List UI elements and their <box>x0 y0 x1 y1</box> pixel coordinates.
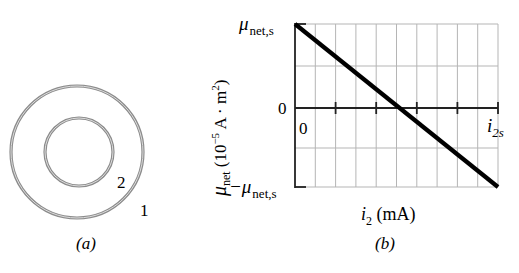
panel-a-caption: (a) <box>76 234 96 253</box>
ring-2-inner <box>45 118 113 186</box>
ring-1-label: 1 <box>140 201 149 220</box>
figure: 2 1 (a) <box>0 0 519 273</box>
x-origin-label: 0 <box>299 119 308 138</box>
panel-b: μnet,s 0 −μnet,s 0 i2s μnet(10−5 A · m2)… <box>208 13 504 253</box>
y-axis-title: μnet(10−5 A · m2) <box>208 80 233 197</box>
y-top-tick-label: μnet,s <box>238 13 274 38</box>
ring-1-outer <box>11 86 143 218</box>
y-zero-tick-label: 0 <box>278 99 287 118</box>
panel-a: 2 1 (a) <box>11 86 149 253</box>
panel-b-caption: (b) <box>375 234 395 253</box>
x-axis-title: i2 (mA) <box>361 204 416 228</box>
x-end-tick-label: i2s <box>487 115 504 140</box>
ring-2-label: 2 <box>117 173 126 192</box>
y-bottom-tick-label: −μnet,s <box>229 176 277 201</box>
